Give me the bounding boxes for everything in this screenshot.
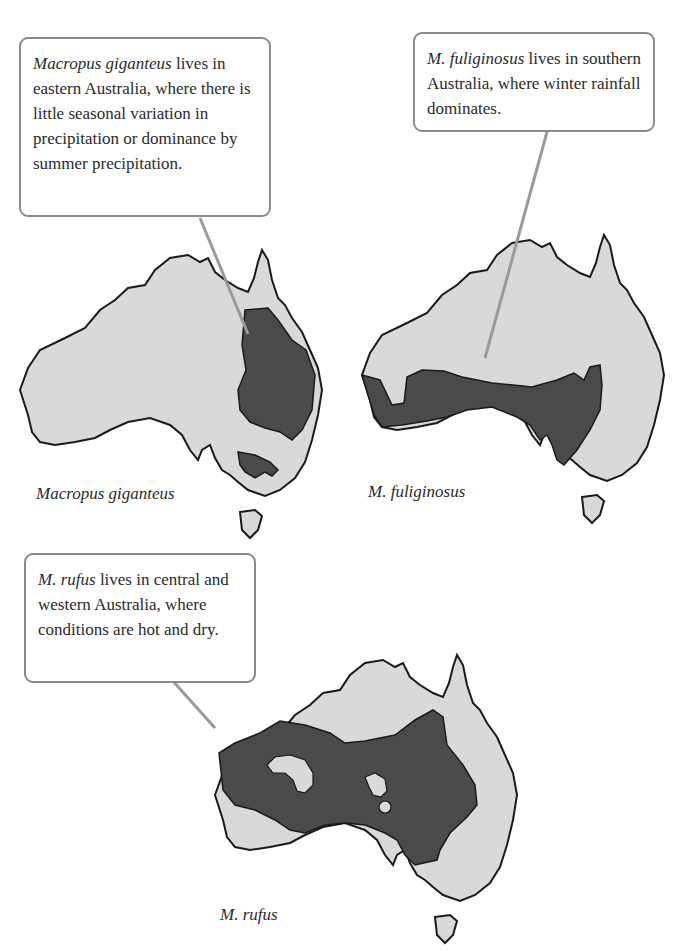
range-gap — [379, 801, 391, 813]
callout-species-name: Macropus giganteus — [33, 54, 172, 73]
map-label-m-rufus: M. rufus — [220, 905, 278, 925]
range-area — [238, 308, 315, 440]
callout-m-fuliginosus: M. fuliginosus lives in southern Austral… — [413, 32, 655, 132]
map-m-rufus — [215, 655, 517, 943]
leader-line — [172, 680, 215, 728]
callout-species-name: M. rufus — [38, 570, 96, 589]
callout-macropus-giganteus: Macropus giganteus lives in eastern Aust… — [19, 37, 271, 217]
map-label-macropus-giganteus: Macropus giganteus — [36, 484, 175, 504]
callout-species-name: M. fuliginosus — [427, 49, 524, 68]
map-label-m-fuliginosus: M. fuliginosus — [368, 482, 465, 502]
map-m-fuliginosus — [362, 235, 664, 523]
callout-m-rufus: M. rufus lives in central and western Au… — [24, 553, 256, 683]
